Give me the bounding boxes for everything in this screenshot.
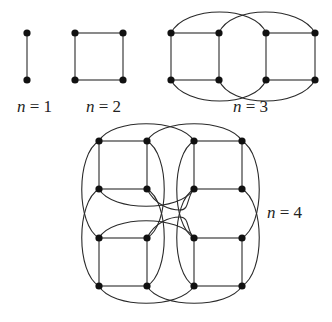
graph-n2 <box>71 29 126 83</box>
graph-n3 <box>167 12 318 101</box>
label-n4: n = 4 <box>267 203 303 222</box>
vertex <box>23 76 30 83</box>
hypercube-diagram: n = 1 n = 2 n = 3 n = 4 <box>0 0 332 322</box>
label-n1: n = 1 <box>17 97 52 116</box>
label-n3: n = 3 <box>233 97 268 116</box>
graph-n1 <box>23 29 30 83</box>
vertex <box>23 29 30 36</box>
graph-n4 <box>82 124 260 304</box>
label-n2: n = 2 <box>86 97 121 116</box>
